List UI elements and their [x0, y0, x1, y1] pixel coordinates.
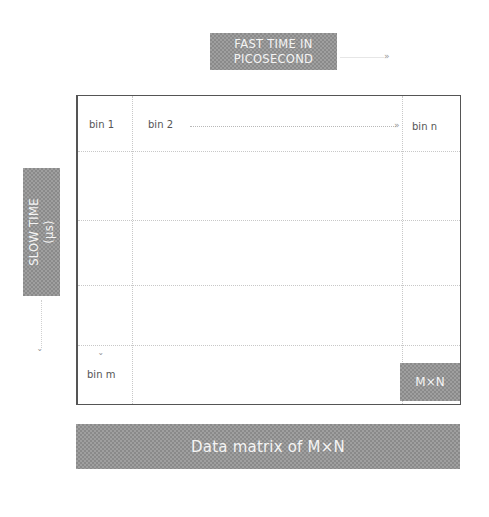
slow-time-label-line1: SLOW TIME: [27, 198, 42, 266]
bin-column-arrow-head-icon: ˇ: [98, 354, 104, 363]
data-matrix-caption: Data matrix of M×N: [76, 424, 460, 469]
slow-time-arrow-line: [41, 300, 42, 348]
bin-2-label: bin 2: [148, 119, 173, 130]
bin-row-arrow-head-icon: »: [394, 121, 400, 130]
fast-time-arrow-head-icon: »: [384, 52, 390, 61]
fast-time-label: FAST TIME IN PICOSECOND: [210, 33, 337, 70]
slow-time-arrow-head-icon: ˇ: [37, 350, 43, 359]
fast-time-arrow-line: [340, 57, 384, 58]
data-matrix-caption-text: Data matrix of M×N: [191, 438, 345, 456]
grid-col-divider: [132, 96, 133, 404]
mxn-cell-label: M×N: [415, 375, 444, 389]
fast-time-label-line1: FAST TIME IN: [234, 37, 314, 52]
bin-row-arrow-line: [190, 126, 396, 127]
bin-m-label: bin m: [87, 369, 115, 380]
data-matrix-grid: bin 1 bin 2 » bin n ˇ bin m: [76, 95, 461, 405]
bin-n-label: bin n: [412, 121, 437, 132]
slow-time-label-line2: (μs): [42, 198, 57, 266]
mxn-cell: M×N: [400, 363, 460, 401]
bin-1-label: bin 1: [89, 119, 114, 130]
grid-col-divider: [402, 96, 403, 404]
fast-time-label-line2: PICOSECOND: [234, 52, 314, 67]
slow-time-label: SLOW TIME (μs): [23, 168, 60, 296]
